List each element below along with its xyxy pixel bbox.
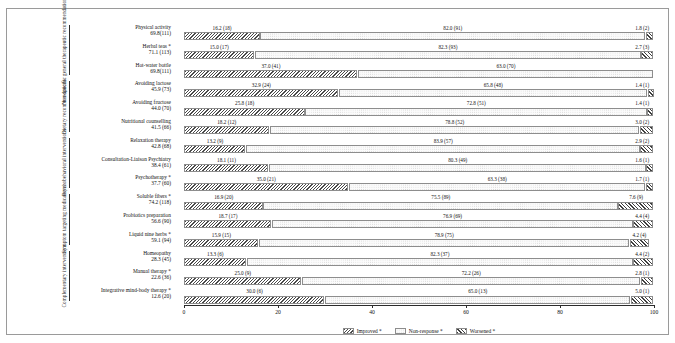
value-label-improved: 16.2 (18): [213, 25, 232, 31]
chart-legend: Improved *Non-response *Worsened *: [184, 325, 654, 337]
row-label-usage: 28.3 (45): [68, 256, 171, 262]
bar-segment-worsened: [633, 220, 653, 228]
value-label-nonresponse: 82.3 (37): [430, 251, 449, 257]
stacked-bar-row: [184, 220, 654, 228]
bar-segment-nonresponse: [260, 32, 645, 40]
row-label: Physical activity69.8(111): [68, 24, 174, 36]
row-label-usage: 41.5 (66): [68, 124, 171, 130]
x-axis-tick-label: 100: [650, 309, 658, 315]
stacked-bar-row: [184, 202, 654, 210]
x-axis: 020406080100: [184, 305, 654, 325]
bar-segment-improved: [184, 239, 258, 247]
value-label-nonresponse: 72.8 (51): [467, 100, 486, 106]
row-label: Hot-water bottle69.8(111): [68, 62, 174, 74]
bar-segment-worsened: [630, 239, 649, 247]
stacked-bar-row: [184, 296, 654, 304]
group-label: Dietary recommendations: [21, 79, 67, 133]
bar-segment-improved: [184, 202, 263, 210]
value-label-improved: 18.1 (11): [217, 157, 236, 163]
row-label: Soluble fibers *74.2 (118): [68, 193, 174, 205]
bar-segment-improved: [184, 126, 269, 134]
group-label: Non-specific general therapeutic recomme…: [21, 23, 67, 77]
value-label-improved: 15.0 (17): [210, 44, 229, 50]
value-label-worsened: 2.7 (3): [635, 44, 649, 50]
value-label-worsened: 4.2 (4): [633, 232, 647, 238]
group-label-text: Complementary interventions: [61, 244, 67, 307]
stacked-bar-row: [184, 32, 654, 40]
value-label-nonresponse: 65.0 (13): [468, 288, 487, 294]
legend-item[interactable]: Worsened *: [456, 328, 495, 335]
bar-segment-nonresponse: [263, 202, 617, 210]
bar-segment-worsened: [633, 258, 653, 266]
group-label: Complementary interventions: [21, 249, 67, 303]
row-label: Relaxation therapy42.8 (68): [68, 137, 174, 149]
bar-segment-worsened: [631, 296, 654, 304]
bar-segment-nonresponse: [305, 108, 647, 116]
bar-segment-worsened: [646, 183, 653, 191]
value-label-worsened: 2.9 (2): [635, 138, 649, 144]
row-label-usage: 45.9 (73): [68, 86, 171, 92]
bar-segment-nonresponse: [270, 126, 640, 134]
bar-segment-nonresponse: [339, 89, 648, 97]
row-label-usage: 38.4 (61): [68, 162, 171, 168]
value-label-nonresponse: 78.8 (52): [445, 119, 464, 125]
value-label-improved: 37.0 (41): [261, 63, 280, 69]
group-label-text: Dietary recommendations: [61, 79, 67, 134]
bar-segment-nonresponse: [302, 277, 641, 285]
value-label-worsened: 4.4 (4): [635, 213, 649, 219]
stacked-bar-row: [184, 89, 654, 97]
row-label: Avoiding lactose45.9 (73): [68, 80, 174, 92]
bar-segment-improved: [184, 89, 338, 97]
x-axis-tick-label: 0: [183, 309, 186, 315]
row-label-usage: 37.7 (60): [68, 180, 171, 186]
stacked-bar-row: [184, 126, 654, 134]
row-label: Probiotics preparation56.6 (90): [68, 212, 174, 224]
row-label-usage: 74.2 (118): [68, 199, 171, 205]
row-label: Consultation-Liaison Psychiatry38.4 (61): [68, 156, 174, 168]
row-label: Avoiding fructose44.0 (70): [68, 99, 174, 111]
bar-segment-nonresponse: [325, 296, 630, 304]
value-label-nonresponse: 82.3 (93): [438, 44, 457, 50]
row-label-usage: 22.6 (36): [68, 274, 171, 280]
legend-item[interactable]: Improved *: [343, 328, 382, 335]
value-label-improved: 18.2 (12): [217, 119, 236, 125]
stacked-bar-row: [184, 239, 654, 247]
value-label-nonresponse: 80.3 (49): [448, 157, 467, 163]
legend-item[interactable]: Non-response *: [395, 328, 443, 335]
bar-segment-nonresponse: [255, 51, 641, 59]
x-axis-tick-label: 80: [557, 309, 563, 315]
figure-canvas: Non-specific general therapeutic recomme…: [0, 0, 675, 343]
value-label-improved: 30.0 (6): [246, 288, 262, 294]
legend-swatch-improved: [343, 328, 354, 335]
figure-frame: Non-specific general therapeutic recomme…: [6, 8, 669, 335]
value-label-improved: 18.7 (17): [218, 213, 237, 219]
bar-segment-nonresponse: [247, 258, 633, 266]
value-label-nonresponse: 78.9 (75): [435, 232, 454, 238]
row-label: Psychotherapy *37.7 (60): [68, 174, 174, 186]
value-label-improved: 13.3 (6): [207, 251, 223, 257]
value-label-improved: 25.0 (9): [235, 270, 251, 276]
value-label-worsened: 1.4 (1): [635, 100, 649, 106]
value-label-worsened: 4.4 (2): [635, 251, 649, 257]
x-axis-tick: [278, 305, 279, 308]
x-axis-line: [184, 305, 654, 306]
row-label-usage: 59.1 (94): [68, 237, 171, 243]
row-label: Manual therapy *22.6 (36): [68, 268, 174, 280]
row-label-usage: 44.0 (70): [68, 105, 171, 111]
value-label-nonresponse: 82.0 (91): [443, 25, 462, 31]
bar-segment-worsened: [618, 202, 653, 210]
bar-segment-improved: [184, 108, 305, 116]
bar-segment-improved: [184, 51, 254, 59]
x-axis-tick: [654, 305, 655, 308]
bar-segment-improved: [184, 183, 348, 191]
bar-segment-worsened: [640, 145, 653, 153]
x-axis-tick: [560, 305, 561, 308]
bar-segment-improved: [184, 220, 271, 228]
value-label-worsened: 1.4 (1): [635, 82, 649, 88]
row-label: Integrative mind-body therapy *12.6 (20): [68, 287, 174, 299]
stacked-bar-row: [184, 183, 654, 191]
legend-label: Improved *: [357, 328, 382, 334]
bar-segment-improved: [184, 296, 324, 304]
value-label-nonresponse: 63.3 (38): [488, 176, 507, 182]
value-label-nonresponse: 83.9 (57): [434, 138, 453, 144]
